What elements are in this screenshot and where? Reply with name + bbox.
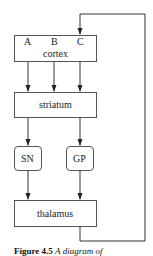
cortex-input-c: C <box>77 36 84 47</box>
caption-prefix: Figure 4.5 <box>14 246 53 256</box>
figure-caption: Figure 4.5 A diagram of <box>14 246 102 256</box>
cortex-label: cortex <box>43 48 68 59</box>
striatum-label: striatum <box>39 99 72 110</box>
sn-label: SN <box>21 153 34 164</box>
caption-text: A diagram of <box>55 246 102 256</box>
thalamus-box: thalamus <box>14 200 97 227</box>
thalamus-label: thalamus <box>37 208 73 219</box>
gp-label: GP <box>73 153 86 164</box>
gp-box: GP <box>66 146 94 171</box>
striatum-box: striatum <box>14 92 97 118</box>
cortex-input-b: B <box>51 36 58 47</box>
cortex-input-a: A <box>24 36 31 47</box>
cortex-box: A B C cortex <box>14 35 97 62</box>
sn-box: SN <box>14 146 42 171</box>
